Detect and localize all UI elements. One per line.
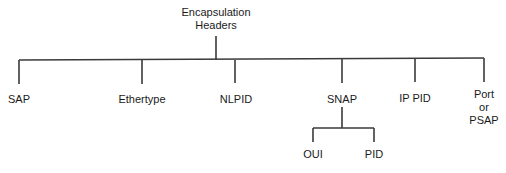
root-label-line1: Encapsulation: [181, 6, 250, 19]
root-node: Encapsulation Headers: [181, 6, 250, 32]
root-label-line2: Headers: [181, 19, 250, 32]
node-oui: OUI: [303, 148, 323, 161]
tree-connectors: [0, 0, 506, 173]
node-ethertype: Ethertype: [118, 93, 165, 106]
node-nlpid: NLPID: [220, 93, 252, 106]
port-label-line2: or: [469, 101, 498, 114]
port-label-line1: Port: [469, 88, 498, 101]
node-port-psap: Port or PSAP: [469, 88, 498, 127]
node-ip-pid: IP PID: [399, 92, 431, 105]
node-sap: SAP: [8, 93, 30, 106]
node-pid: PID: [365, 148, 383, 161]
node-snap: SNAP: [327, 93, 357, 106]
port-label-line3: PSAP: [469, 114, 498, 127]
